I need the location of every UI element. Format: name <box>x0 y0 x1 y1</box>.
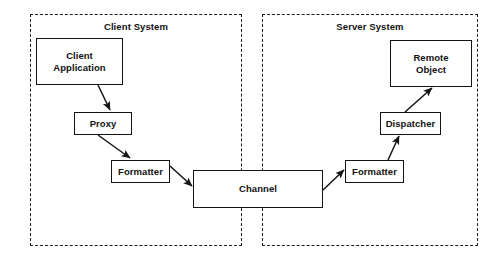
node-remote-object: Remote Object <box>390 40 472 87</box>
node-channel-label: Channel <box>236 183 280 195</box>
node-formatter-server-label: Formatter <box>349 166 400 178</box>
node-formatter-client-label: Formatter <box>115 166 166 178</box>
arrow-proxy-to-formatter-client <box>98 135 130 158</box>
diagram-canvas: Client System Server System Client Appli… <box>0 0 504 256</box>
node-client-application-label: Client Application <box>50 50 108 73</box>
node-formatter-server: Formatter <box>345 160 404 183</box>
node-client-application: Client Application <box>36 38 123 85</box>
node-dispatcher-label: Dispatcher <box>383 118 439 130</box>
node-channel: Channel <box>193 170 323 208</box>
arrow-dispatcher-to-remote-object <box>405 88 432 112</box>
node-proxy: Proxy <box>74 112 132 135</box>
arrow-formatter-client-to-channel <box>170 166 192 186</box>
arrow-channel-to-formatter-server <box>323 170 344 190</box>
node-remote-object-label: Remote Object <box>410 52 451 75</box>
arrow-client-application-to-proxy <box>98 85 110 110</box>
arrow-formatter-server-to-dispatcher <box>388 136 399 160</box>
node-formatter-client: Formatter <box>111 160 170 183</box>
node-dispatcher: Dispatcher <box>380 112 441 135</box>
node-proxy-label: Proxy <box>87 118 120 130</box>
